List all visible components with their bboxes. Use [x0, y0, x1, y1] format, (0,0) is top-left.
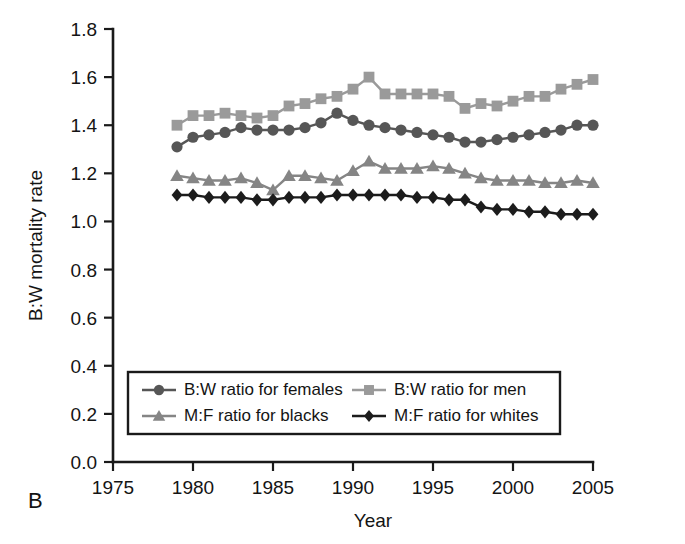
y-tick-label: 0.6 — [71, 308, 97, 329]
marker-diamond — [188, 188, 199, 201]
marker-square — [268, 110, 279, 121]
marker-diamond — [300, 191, 311, 204]
marker-triangle — [170, 169, 184, 181]
legend-label: B:W ratio for females — [184, 380, 343, 399]
y-tick-label: 1.2 — [71, 163, 97, 184]
legend-label: M:F ratio for whites — [394, 406, 539, 425]
marker-diamond — [204, 191, 215, 204]
marker-circle — [523, 129, 534, 140]
x-tick-label: 2000 — [492, 477, 534, 498]
marker-circle — [411, 127, 422, 138]
marker-square — [412, 89, 423, 100]
marker-square — [284, 101, 295, 112]
marker-circle — [187, 132, 198, 143]
y-tick-label: 1.8 — [71, 19, 97, 40]
marker-diamond — [172, 188, 183, 201]
marker-circle — [379, 122, 390, 133]
y-tick-label: 1.0 — [71, 211, 97, 232]
marker-square — [524, 91, 535, 102]
marker-square — [364, 385, 374, 395]
x-tick-label: 2005 — [572, 477, 614, 498]
figure-panel-b: 0.00.20.40.60.81.01.21.41.61.8 197519801… — [0, 0, 685, 544]
marker-circle — [315, 117, 326, 128]
marker-square — [508, 96, 519, 107]
marker-square — [252, 113, 263, 124]
legend-label: B:W ratio for men — [394, 380, 526, 399]
marker-diamond — [284, 191, 295, 204]
x-tick-label: 1995 — [412, 477, 454, 498]
y-tick-label: 0.8 — [71, 260, 97, 281]
marker-diamond — [348, 188, 359, 201]
marker-square — [204, 110, 215, 121]
marker-square — [540, 91, 551, 102]
marker-diamond — [524, 205, 535, 218]
y-tick-label: 0.2 — [71, 404, 97, 425]
marker-circle — [251, 124, 262, 135]
marker-square — [460, 103, 471, 114]
marker-triangle — [234, 172, 248, 184]
marker-square — [364, 72, 375, 83]
marker-square — [588, 74, 599, 85]
y-tick-label: 0.4 — [71, 356, 98, 377]
marker-square — [556, 84, 567, 95]
x-axis-title: Year — [354, 510, 393, 531]
x-tick-label: 1990 — [332, 477, 374, 498]
marker-circle — [491, 134, 502, 145]
y-axis-title: B:W mortality rate — [25, 170, 46, 321]
marker-circle — [459, 136, 470, 147]
marker-diamond — [508, 203, 519, 216]
marker-square — [220, 108, 231, 119]
marker-diamond — [236, 191, 247, 204]
legend-label: M:F ratio for blacks — [184, 406, 329, 425]
marker-square — [236, 110, 247, 121]
marker-diamond — [380, 188, 391, 201]
marker-circle — [267, 124, 278, 135]
marker-circle — [171, 141, 182, 152]
marker-circle — [363, 120, 374, 131]
y-tick-label: 1.6 — [71, 67, 97, 88]
marker-diamond — [364, 188, 375, 201]
series-layer — [170, 72, 600, 221]
marker-square — [476, 98, 487, 109]
marker-diamond — [220, 191, 231, 204]
x-axis-ticks: 1975198019851990199520002005 — [92, 462, 614, 498]
marker-square — [492, 101, 503, 112]
marker-diamond — [572, 208, 583, 221]
marker-circle — [587, 120, 598, 131]
marker-circle — [283, 124, 294, 135]
marker-circle — [427, 129, 438, 140]
marker-circle — [331, 108, 342, 119]
marker-square — [332, 91, 343, 102]
marker-triangle — [346, 164, 360, 176]
marker-diamond — [252, 193, 263, 206]
line-chart: 0.00.20.40.60.81.01.21.41.61.8 197519801… — [0, 0, 685, 544]
marker-circle — [203, 129, 214, 140]
marker-diamond — [428, 191, 439, 204]
marker-diamond — [316, 191, 327, 204]
marker-diamond — [588, 208, 599, 221]
marker-square — [572, 79, 583, 90]
marker-diamond — [540, 205, 551, 218]
x-tick-label: 1985 — [252, 477, 294, 498]
series-square — [172, 72, 599, 131]
marker-circle — [299, 122, 310, 133]
marker-circle — [571, 120, 582, 131]
marker-circle — [539, 127, 550, 138]
marker-circle — [395, 124, 406, 135]
marker-triangle — [362, 155, 376, 167]
marker-triangle — [570, 174, 584, 186]
marker-square — [380, 89, 391, 100]
y-tick-label: 0.0 — [71, 452, 97, 473]
marker-square — [348, 84, 359, 95]
marker-circle — [475, 136, 486, 147]
marker-diamond — [492, 203, 503, 216]
marker-circle — [219, 127, 230, 138]
marker-square — [316, 93, 327, 104]
marker-square — [444, 91, 455, 102]
marker-diamond — [460, 193, 471, 206]
marker-square — [300, 98, 311, 109]
marker-circle — [347, 115, 358, 126]
marker-circle — [235, 122, 246, 133]
marker-diamond — [556, 208, 567, 221]
marker-circle — [154, 385, 164, 395]
